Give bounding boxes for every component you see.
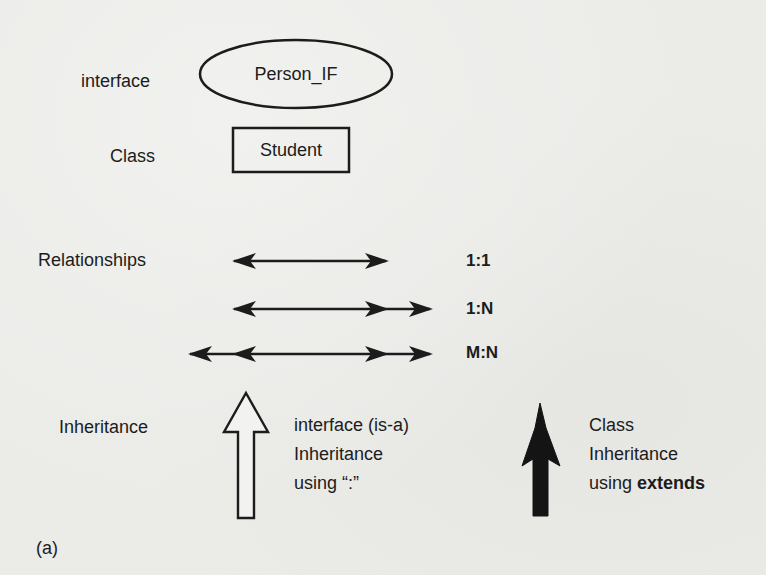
- relationships-label: Relationships: [38, 251, 146, 269]
- class-example-text: Student: [233, 140, 349, 161]
- interface-inheritance-line2: Inheritance: [294, 440, 409, 469]
- class-inheritance-description: Class Inheritance using extends: [589, 411, 705, 498]
- interface-inheritance-line3: using “:”: [294, 469, 409, 498]
- class-inheritance-line3-prefix: using: [589, 473, 637, 493]
- extends-keyword: extends: [637, 473, 705, 493]
- class-label: Class: [110, 147, 155, 165]
- hollow-up-arrow-icon: [224, 393, 268, 518]
- one-to-many-arrow: [232, 301, 433, 317]
- interface-inheritance-line1: interface (is-a): [294, 411, 409, 440]
- class-inheritance-line2: Inheritance: [589, 440, 705, 469]
- class-inheritance-line1: Class: [589, 411, 705, 440]
- many-to-many-arrow: [188, 346, 433, 362]
- interface-inheritance-description: interface (is-a) Inheritance using “:”: [294, 411, 409, 498]
- class-inheritance-line3: using extends: [589, 469, 705, 498]
- one-to-one-arrow: [232, 253, 389, 269]
- inheritance-label: Inheritance: [59, 418, 148, 436]
- cardinality-1-1: 1:1: [466, 252, 491, 269]
- filled-up-arrow-icon: [522, 403, 560, 516]
- interface-example-text: Person_IF: [200, 64, 392, 85]
- figure-caption: (a): [36, 539, 58, 557]
- cardinality-m-n: M:N: [466, 344, 498, 361]
- cardinality-1-n: 1:N: [466, 300, 493, 317]
- interface-label: interface: [81, 72, 150, 90]
